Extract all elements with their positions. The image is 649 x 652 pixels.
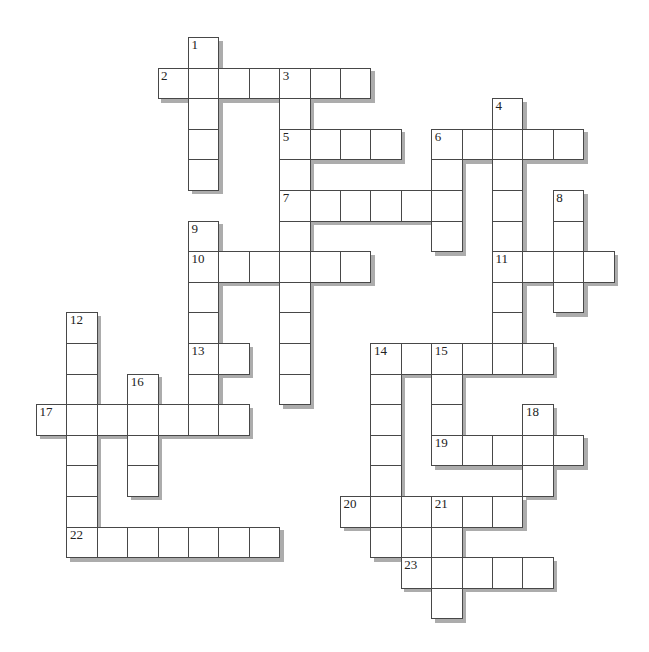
grid-cell[interactable]	[310, 68, 341, 100]
grid-cell[interactable]	[66, 374, 97, 406]
grid-cell[interactable]	[66, 435, 97, 467]
grid-cell[interactable]	[249, 527, 280, 559]
grid-cell[interactable]	[553, 435, 584, 467]
grid-cell[interactable]: 5	[279, 129, 310, 161]
grid-cell[interactable]	[522, 435, 553, 467]
grid-cell[interactable]	[492, 282, 523, 314]
grid-cell[interactable]	[370, 496, 401, 528]
grid-cell[interactable]: 8	[553, 190, 584, 222]
grid-cell[interactable]	[249, 68, 280, 100]
grid-cell[interactable]	[279, 251, 310, 283]
grid-cell[interactable]: 1	[188, 37, 219, 69]
grid-cell[interactable]	[188, 68, 219, 100]
grid-cell[interactable]	[279, 312, 310, 344]
grid-cell[interactable]: 22	[66, 527, 97, 559]
grid-cell[interactable]	[158, 404, 189, 436]
grid-cell[interactable]	[553, 282, 584, 314]
grid-cell[interactable]	[340, 190, 371, 222]
grid-cell[interactable]	[340, 251, 371, 283]
grid-cell[interactable]	[401, 190, 432, 222]
grid-cell[interactable]	[522, 129, 553, 161]
grid-cell[interactable]	[370, 404, 401, 436]
grid-cell[interactable]	[553, 251, 584, 283]
grid-cell[interactable]	[401, 343, 432, 375]
grid-cell[interactable]	[279, 282, 310, 314]
grid-cell[interactable]: 21	[431, 496, 462, 528]
grid-cell[interactable]	[279, 221, 310, 253]
grid-cell[interactable]	[370, 374, 401, 406]
grid-cell[interactable]	[553, 129, 584, 161]
grid-cell[interactable]	[97, 527, 128, 559]
grid-cell[interactable]: 18	[522, 404, 553, 436]
grid-cell[interactable]	[279, 374, 310, 406]
grid-cell[interactable]	[462, 343, 493, 375]
grid-cell[interactable]	[188, 159, 219, 191]
grid-cell[interactable]	[340, 68, 371, 100]
grid-cell[interactable]: 20	[340, 496, 371, 528]
grid-cell[interactable]	[431, 159, 462, 191]
grid-cell[interactable]	[218, 251, 249, 283]
grid-cell[interactable]	[431, 527, 462, 559]
grid-cell[interactable]	[127, 527, 158, 559]
grid-cell[interactable]	[431, 557, 462, 589]
grid-cell[interactable]	[431, 374, 462, 406]
grid-cell[interactable]: 14	[370, 343, 401, 375]
grid-cell[interactable]	[462, 129, 493, 161]
grid-cell[interactable]	[66, 496, 97, 528]
grid-cell[interactable]	[188, 129, 219, 161]
grid-cell[interactable]	[370, 527, 401, 559]
grid-cell[interactable]	[522, 251, 553, 283]
grid-cell[interactable]: 12	[66, 312, 97, 344]
grid-cell[interactable]	[127, 465, 158, 497]
grid-cell[interactable]	[492, 190, 523, 222]
grid-cell[interactable]: 6	[431, 129, 462, 161]
grid-cell[interactable]	[279, 343, 310, 375]
grid-cell[interactable]	[492, 129, 523, 161]
grid-cell[interactable]: 10	[188, 251, 219, 283]
grid-cell[interactable]	[431, 221, 462, 253]
grid-cell[interactable]	[462, 435, 493, 467]
grid-cell[interactable]: 17	[36, 404, 67, 436]
grid-cell[interactable]	[279, 159, 310, 191]
grid-cell[interactable]: 2	[158, 68, 189, 100]
grid-cell[interactable]	[492, 221, 523, 253]
grid-cell[interactable]	[66, 343, 97, 375]
grid-cell[interactable]	[340, 129, 371, 161]
grid-cell[interactable]	[218, 527, 249, 559]
grid-cell[interactable]	[492, 557, 523, 589]
grid-cell[interactable]	[553, 221, 584, 253]
grid-cell[interactable]	[431, 588, 462, 620]
grid-cell[interactable]	[522, 465, 553, 497]
grid-cell[interactable]	[370, 435, 401, 467]
grid-cell[interactable]	[462, 557, 493, 589]
grid-cell[interactable]	[66, 465, 97, 497]
grid-cell[interactable]: 13	[188, 343, 219, 375]
grid-cell[interactable]	[188, 404, 219, 436]
grid-cell[interactable]	[522, 557, 553, 589]
grid-cell[interactable]: 23	[401, 557, 432, 589]
grid-cell[interactable]	[492, 343, 523, 375]
grid-cell[interactable]	[188, 527, 219, 559]
grid-cell[interactable]: 9	[188, 221, 219, 253]
grid-cell[interactable]	[249, 251, 280, 283]
grid-cell[interactable]: 7	[279, 190, 310, 222]
grid-cell[interactable]	[583, 251, 614, 283]
grid-cell[interactable]	[492, 312, 523, 344]
grid-cell[interactable]	[188, 282, 219, 314]
grid-cell[interactable]	[127, 404, 158, 436]
grid-cell[interactable]	[188, 98, 219, 130]
grid-cell[interactable]	[188, 374, 219, 406]
grid-cell[interactable]	[97, 404, 128, 436]
grid-cell[interactable]	[401, 496, 432, 528]
grid-cell[interactable]	[218, 343, 249, 375]
grid-cell[interactable]	[310, 129, 341, 161]
grid-cell[interactable]	[66, 404, 97, 436]
grid-cell[interactable]: 15	[431, 343, 462, 375]
grid-cell[interactable]: 3	[279, 68, 310, 100]
grid-cell[interactable]	[492, 159, 523, 191]
grid-cell[interactable]: 19	[431, 435, 462, 467]
grid-cell[interactable]	[492, 435, 523, 467]
grid-cell[interactable]	[462, 496, 493, 528]
grid-cell[interactable]	[310, 251, 341, 283]
grid-cell[interactable]	[218, 68, 249, 100]
